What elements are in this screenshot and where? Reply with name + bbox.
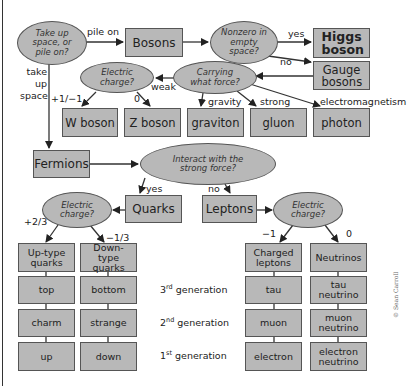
edge-label-electromagnetism: electromagnetism xyxy=(320,96,406,107)
header-down-type-quarks: Down-type quarks xyxy=(80,243,137,272)
edge-label-z-charge: 0 xyxy=(134,93,140,104)
particle-down: down xyxy=(80,342,137,371)
edge-label-yes-higgs: yes xyxy=(288,28,304,39)
particle-electron: electron xyxy=(245,342,302,371)
node-z-boson: Z boson xyxy=(124,108,181,137)
edge-label-w-charge: +1/−1 xyxy=(51,93,82,104)
generation-3-label: 3rd generation xyxy=(160,283,227,295)
question-boson-electric-charge: Electric charge? xyxy=(80,62,154,93)
edge-label-down-charge: −1/3 xyxy=(106,232,129,243)
edge-label-neutrino-charge: 0 xyxy=(346,228,352,239)
question-nonzero-empty-space: Nonzero in empty space? xyxy=(210,21,278,64)
edge-label-gravity: gravity xyxy=(208,96,241,107)
header-neutrinos: Neutrinos xyxy=(310,243,367,272)
node-higgs-boson: Higgs boson xyxy=(313,28,370,58)
copyright-credit: © Sean Carroll xyxy=(392,272,399,318)
node-quarks: Quarks xyxy=(125,195,182,223)
edge-label-no-leptons: no xyxy=(208,183,220,194)
edge-label-yes-quarks: yes xyxy=(146,183,162,194)
header-up-type-quarks: Up-type quarks xyxy=(18,243,75,272)
node-gluon: gluon xyxy=(250,108,307,137)
particle-top: top xyxy=(18,276,75,304)
generation-2-label: 2nd generation xyxy=(160,316,229,328)
edge-label-take-up-space: take up space xyxy=(20,66,47,102)
edge-label-weak: weak xyxy=(151,81,176,92)
header-charged-leptons: Charged leptons xyxy=(245,243,302,272)
node-fermions: Fermions xyxy=(33,150,90,178)
question-space-or-pile: Take up space, or pile on? xyxy=(17,21,87,65)
generation-1-label: 1st generation xyxy=(160,349,227,361)
edge-label-pile-on: pile on xyxy=(87,26,119,37)
node-w-boson: W boson xyxy=(62,108,118,137)
particle-muon-neutrino: muon neutrino xyxy=(310,309,367,337)
particle-tau: tau xyxy=(245,276,302,304)
edge-label-up-charge: +2/3 xyxy=(24,216,47,227)
question-carrying-force: Carrying what force? xyxy=(173,61,257,94)
edge-label-no-gauge: no xyxy=(280,56,292,67)
question-lepton-electric-charge: Electric charge? xyxy=(273,192,343,228)
particle-electron-neutrino: electron neutrino xyxy=(310,342,367,371)
node-graviton: graviton xyxy=(187,108,244,137)
edge-label-strong: strong xyxy=(260,96,290,107)
particle-up: up xyxy=(18,342,75,371)
question-quark-electric-charge: Electric charge? xyxy=(42,192,112,228)
node-leptons: Leptons xyxy=(202,195,257,223)
node-photon: photon xyxy=(313,108,370,137)
question-strong-force: Interact with the strong force? xyxy=(140,143,276,185)
particle-bottom: bottom xyxy=(80,276,137,304)
node-bosons: Bosons xyxy=(125,28,183,57)
particle-tau-neutrino: tau neutrino xyxy=(310,276,367,304)
node-gauge-bosons: Gauge bosons xyxy=(313,61,370,90)
edge-label-charged-lepton-charge: −1 xyxy=(262,228,276,239)
particle-charm: charm xyxy=(18,309,75,337)
particle-strange: strange xyxy=(80,309,137,337)
particle-muon: muon xyxy=(245,309,302,337)
